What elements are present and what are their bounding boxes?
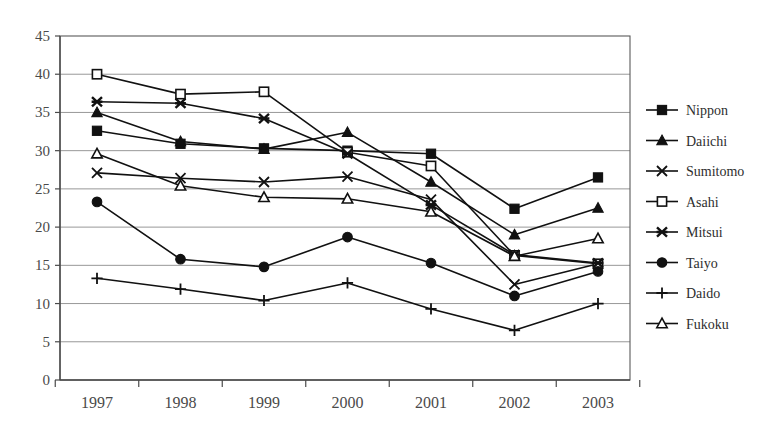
legend-item-label: Nippon [686, 103, 728, 118]
y-axis-tick-label: 0 [43, 372, 51, 388]
x-axis-category-label: 2002 [499, 394, 531, 411]
line-chart-figure: 051015202530354045 199719981999200020012… [0, 0, 765, 436]
data-point-marker [509, 325, 520, 336]
data-point-marker [657, 197, 666, 206]
data-point-marker [593, 203, 603, 213]
legend-item-label: Fukoku [686, 317, 729, 332]
x-axis-category-label: 2003 [582, 394, 614, 411]
y-axis-tick-label: 35 [35, 104, 50, 120]
data-point-marker [426, 149, 435, 158]
data-point-marker [92, 97, 103, 106]
legend-item-fukoku[interactable]: Fukoku [646, 317, 729, 332]
data-point-marker [175, 99, 186, 108]
y-axis-tick-label: 15 [35, 257, 50, 273]
data-point-marker [593, 173, 602, 182]
series-daiichi [92, 107, 603, 239]
y-axis-tick-label: 40 [35, 66, 50, 82]
legend-item-taiyo[interactable]: Taiyo [646, 256, 718, 271]
data-point-marker [425, 303, 436, 314]
series-sumitomo [92, 168, 603, 290]
y-axis-tick-label: 45 [35, 28, 50, 44]
data-point-marker [259, 114, 270, 123]
y-axis-tick-label: 30 [35, 143, 50, 159]
data-point-marker [343, 232, 353, 242]
x-axis-category-label: 1997 [81, 394, 113, 411]
data-point-marker [426, 177, 436, 187]
data-point-marker [176, 254, 186, 264]
y-axis-tick-label: 20 [35, 219, 50, 235]
x-axis-category-label: 1999 [248, 394, 280, 411]
legend-item-asahi[interactable]: Asahi [646, 195, 719, 210]
legend-item-mitsui[interactable]: Mitsui [646, 225, 723, 240]
data-point-marker [426, 161, 435, 170]
legend-item-label: Daido [686, 286, 720, 301]
data-point-marker [175, 283, 186, 294]
legend-item-label: Mitsui [686, 225, 723, 240]
data-point-marker [92, 107, 102, 117]
plot-area-border [60, 36, 630, 380]
data-point-marker [656, 287, 667, 298]
x-axis-category-label: 1998 [165, 394, 197, 411]
data-point-marker [259, 262, 269, 272]
legend-item-label: Daiichi [686, 134, 727, 149]
data-point-marker [657, 105, 666, 114]
data-point-marker [92, 70, 101, 79]
data-point-marker [426, 258, 436, 268]
plot-frame [60, 36, 630, 380]
data-point-marker [593, 267, 603, 277]
y-axis-tick-label: 10 [35, 296, 50, 312]
legend-item-label: Sumitomo [686, 164, 744, 179]
data-point-marker [342, 127, 352, 137]
data-point-marker [92, 148, 102, 158]
data-point-marker [510, 279, 520, 289]
x-axis-category-label: 2001 [415, 394, 447, 411]
legend-item-daiichi[interactable]: Daiichi [646, 134, 727, 149]
data-point-marker [92, 126, 101, 135]
x-axis: 1997199819992000200120022003 [55, 380, 640, 411]
y-axis-tick-label: 25 [35, 181, 50, 197]
legend-item-nippon[interactable]: Nippon [646, 103, 728, 118]
data-point-marker [258, 295, 269, 306]
y-axis: 051015202530354045 [35, 28, 60, 388]
chart-canvas: 051015202530354045 199719981999200020012… [0, 0, 765, 436]
data-point-marker [510, 204, 519, 213]
chart-gridlines [60, 74, 630, 342]
legend-item-label: Asahi [686, 195, 719, 210]
data-point-marker [259, 87, 268, 96]
data-point-marker [592, 298, 603, 309]
series-line [97, 173, 598, 285]
data-point-marker [91, 273, 102, 284]
legend-item-label: Taiyo [686, 256, 718, 271]
x-axis-category-label: 2000 [332, 394, 364, 411]
data-point-marker [593, 233, 603, 243]
data-point-marker [510, 291, 520, 301]
data-point-marker [92, 197, 102, 207]
legend-item-daido[interactable]: Daido [646, 286, 720, 301]
data-point-marker [342, 277, 353, 288]
y-axis-tick-label: 5 [43, 334, 51, 350]
chart-legend: NipponDaiichiSumitomoAsahiMitsuiTaiyoDai… [646, 103, 744, 332]
data-point-marker [657, 258, 667, 268]
data-point-marker [657, 227, 668, 236]
legend-item-sumitomo[interactable]: Sumitomo [646, 164, 744, 179]
series-container [91, 70, 603, 336]
data-point-marker [176, 89, 185, 98]
